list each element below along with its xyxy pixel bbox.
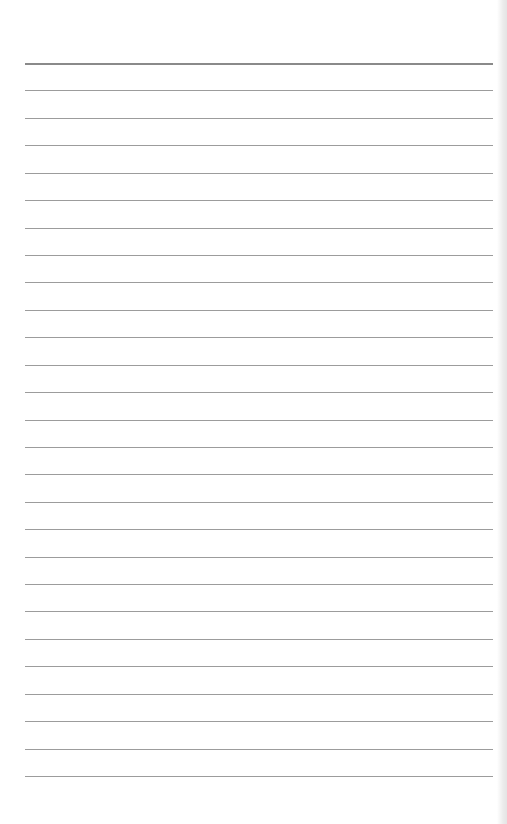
rule-line: [25, 392, 493, 393]
rule-line: [25, 228, 493, 229]
rule-line: [25, 173, 493, 174]
rule-line: [25, 255, 493, 256]
top-rule-line: [25, 63, 493, 65]
page-edge-shadow: [497, 0, 507, 824]
rule-line: [25, 447, 493, 448]
rule-line: [25, 337, 493, 338]
rule-line: [25, 365, 493, 366]
rule-line: [25, 420, 493, 421]
rule-line: [25, 694, 493, 695]
rule-line: [25, 666, 493, 667]
rule-line: [25, 584, 493, 585]
rule-line: [25, 749, 493, 750]
rule-line: [25, 200, 493, 201]
rule-line: [25, 611, 493, 612]
rule-line: [25, 118, 493, 119]
rule-line: [25, 557, 493, 558]
rule-line: [25, 90, 493, 91]
rule-line: [25, 721, 493, 722]
lined-paper-page: [0, 0, 507, 824]
rule-line: [25, 529, 493, 530]
rule-line: [25, 502, 493, 503]
rule-line: [25, 145, 493, 146]
rule-line: [25, 310, 493, 311]
rule-line: [25, 282, 493, 283]
rule-line: [25, 474, 493, 475]
rule-line: [25, 639, 493, 640]
rule-line: [25, 776, 493, 777]
